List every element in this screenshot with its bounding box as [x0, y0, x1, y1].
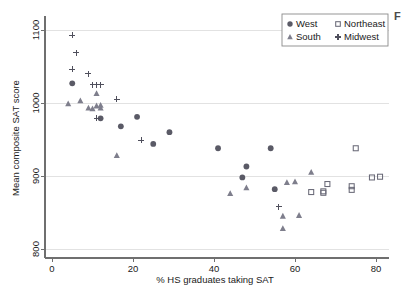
legend-marker-west-icon [287, 21, 292, 26]
legend[interactable]: WestNortheastSouthMidwest [282, 14, 388, 46]
point-south [308, 169, 314, 175]
y-tick-label-900: 900 [30, 168, 41, 184]
tick-marks [41, 30, 376, 262]
point-midwest [138, 137, 144, 143]
point-west [118, 123, 124, 129]
point-south [94, 90, 100, 96]
point-south [292, 179, 298, 185]
legend-label-northeast: Northeast [344, 18, 386, 29]
edge-fragment-glyph: F [394, 10, 401, 22]
x-tick-label-0: 0 [49, 263, 54, 274]
point-west [150, 141, 156, 147]
series-northeast [309, 146, 383, 196]
series-south [65, 90, 314, 231]
point-northeast [321, 189, 326, 194]
x-tick-label-60: 60 [290, 263, 301, 274]
legend-label-west: West [296, 18, 318, 29]
data-points [65, 32, 382, 231]
point-northeast [349, 187, 354, 192]
point-midwest [73, 50, 79, 56]
scatter-plot: 020406080 80090010001100 WestNortheastSo… [0, 0, 403, 306]
point-south [280, 225, 286, 231]
y-axis-label: Mean composite SAT score [10, 80, 21, 196]
point-south [243, 184, 249, 190]
point-south [284, 179, 290, 185]
figure-container: 020406080 80090010001100 WestNortheastSo… [0, 0, 403, 306]
point-midwest [69, 66, 75, 72]
point-northeast [325, 182, 330, 187]
point-northeast [378, 174, 383, 179]
y-tick-label-800: 800 [30, 241, 41, 257]
axes [45, 16, 389, 258]
gridlines [45, 30, 389, 249]
point-northeast [309, 190, 314, 195]
point-south [77, 98, 83, 104]
x-tick-labels: 020406080 [49, 263, 381, 274]
point-west [268, 145, 274, 151]
point-midwest [98, 82, 104, 88]
y-tick-label-1000: 1000 [30, 92, 41, 113]
point-south [114, 152, 120, 158]
x-tick-label-80: 80 [371, 263, 382, 274]
legend-label-midwest: Midwest [344, 31, 379, 42]
point-west [134, 114, 140, 120]
x-axis-label: % HS graduates taking SAT [156, 274, 274, 285]
point-south [280, 213, 286, 219]
y-tick-label-1100: 1100 [30, 20, 41, 40]
point-west [69, 80, 75, 86]
point-west [244, 164, 250, 170]
legend-label-south: South [296, 31, 321, 42]
point-south [296, 212, 302, 218]
point-northeast [353, 146, 358, 151]
point-west [167, 129, 173, 135]
point-northeast [349, 184, 354, 189]
point-west [215, 145, 221, 151]
point-west [239, 175, 245, 181]
point-midwest [69, 32, 75, 38]
y-tick-labels: 80090010001100 [30, 20, 41, 257]
point-midwest [85, 71, 91, 77]
series-west [69, 80, 277, 192]
point-south [227, 190, 233, 196]
point-west [272, 186, 278, 192]
point-northeast [321, 190, 326, 195]
x-tick-label-20: 20 [128, 263, 139, 274]
legend-item-northeast[interactable]: Northeast [336, 18, 386, 29]
x-tick-label-40: 40 [209, 263, 220, 274]
point-midwest [276, 204, 282, 210]
point-midwest [114, 96, 120, 102]
